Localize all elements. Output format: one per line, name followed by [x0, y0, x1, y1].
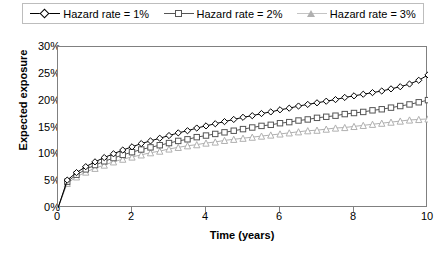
square-marker — [416, 100, 421, 105]
square-marker — [379, 107, 384, 112]
square-marker — [213, 131, 218, 136]
diamond-marker — [166, 132, 172, 138]
diamond-marker — [184, 128, 190, 134]
square-marker — [139, 147, 144, 152]
diamond-marker — [351, 93, 357, 99]
diamond-marker — [323, 98, 329, 104]
diamond-marker — [295, 103, 301, 109]
square-marker — [407, 102, 412, 107]
legend-entry-hazard-1: Hazard rate = 1% — [30, 8, 149, 20]
diamond-marker — [286, 105, 292, 111]
diamond-marker — [342, 94, 348, 100]
diamond-marker — [425, 72, 428, 78]
series-canvas — [58, 47, 428, 208]
diamond-marker — [240, 114, 246, 120]
square-marker — [240, 126, 245, 131]
diamond-marker — [157, 135, 163, 141]
x-tick-mark — [279, 207, 280, 212]
x-tick-label: 8 — [341, 211, 365, 222]
diamond-marker — [369, 90, 375, 96]
legend-label-hazard-2: Hazard rate = 2% — [197, 8, 283, 20]
plot-frame — [57, 46, 427, 207]
x-tick-label: 6 — [267, 211, 291, 222]
square-marker — [351, 110, 356, 115]
x-axis-title: Time (years) — [57, 229, 427, 241]
triangle-marker-icon — [297, 8, 327, 19]
diamond-marker — [231, 116, 237, 122]
square-marker — [259, 123, 264, 128]
diamond-marker — [147, 138, 153, 144]
square-marker — [296, 118, 301, 123]
diamond-marker — [332, 96, 338, 102]
square-marker — [157, 143, 162, 148]
square-marker — [166, 140, 171, 145]
diamond-marker — [397, 84, 403, 90]
square-marker — [222, 130, 227, 135]
square-marker — [231, 128, 236, 133]
diamond-marker — [258, 110, 264, 116]
square-marker — [203, 133, 208, 138]
chart-plot-region: Expected exposure 0%5%10%15%20%25%30% 02… — [0, 26, 448, 255]
square-marker — [185, 137, 190, 142]
square-marker — [342, 111, 347, 116]
diamond-marker — [138, 141, 144, 147]
diamond-marker — [194, 125, 200, 131]
diamond-marker — [379, 88, 385, 94]
diamond-marker — [406, 81, 412, 87]
diamond-marker — [249, 113, 255, 119]
diamond-marker — [277, 107, 283, 113]
x-tick-label: 0 — [45, 211, 69, 222]
diamond-marker — [416, 77, 422, 83]
diamond-marker — [203, 123, 209, 129]
diamond-marker — [314, 100, 320, 106]
diamond-marker — [388, 86, 394, 92]
x-tick-mark — [353, 207, 354, 212]
diamond-marker — [221, 118, 227, 124]
x-tick-label: 10 — [415, 211, 439, 222]
chart-legend: Hazard rate = 1% Hazard rate = 2% Hazard… — [22, 3, 424, 24]
diamond-marker-icon — [30, 8, 60, 19]
square-marker — [314, 115, 319, 120]
square-marker — [277, 121, 282, 126]
legend-entry-hazard-2: Hazard rate = 2% — [164, 8, 283, 20]
square-marker — [148, 145, 153, 150]
square-marker-icon — [164, 8, 194, 19]
square-marker — [324, 114, 329, 119]
x-tick-mark — [131, 207, 132, 212]
diamond-marker — [268, 109, 274, 115]
x-tick-label: 2 — [119, 211, 143, 222]
square-marker — [333, 113, 338, 118]
square-marker — [361, 109, 366, 114]
diamond-marker — [305, 101, 311, 107]
square-marker — [250, 125, 255, 130]
square-marker — [425, 97, 428, 102]
square-marker — [398, 103, 403, 108]
square-marker — [268, 122, 273, 127]
square-marker — [388, 105, 393, 110]
square-marker — [305, 117, 310, 122]
diamond-marker — [360, 91, 366, 97]
x-tick-mark — [205, 207, 206, 212]
square-marker — [287, 119, 292, 124]
square-marker — [176, 138, 181, 143]
square-marker — [370, 108, 375, 113]
square-marker — [194, 134, 199, 139]
x-tick-label: 4 — [193, 211, 217, 222]
legend-label-hazard-3: Hazard rate = 3% — [330, 8, 416, 20]
diamond-marker — [175, 130, 181, 136]
diamond-marker — [212, 121, 218, 127]
legend-label-hazard-1: Hazard rate = 1% — [63, 8, 149, 20]
legend-entry-hazard-3: Hazard rate = 3% — [297, 8, 416, 20]
